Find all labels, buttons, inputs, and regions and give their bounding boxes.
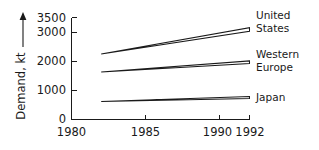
y-tick-label-3000: 3000 — [37, 25, 66, 39]
y-axis-title: Demand, kt — [14, 52, 28, 120]
x-tick-label-1980: 1980 — [57, 125, 86, 139]
y-axis-tick-labels: 3500 3000 2000 1000 0 — [37, 11, 66, 126]
series-label-japan: Japan — [255, 91, 285, 103]
x-tick-label-1990: 1990 — [203, 125, 232, 139]
x-tick-label-1985: 1985 — [131, 125, 160, 139]
series-band-japan — [101, 97, 249, 102]
japan-label-line1: Japan — [255, 91, 285, 103]
demand-forecast-chart: Demand, kt 3500 3000 2000 1000 0 1980 19 — [0, 0, 319, 150]
y-tick-label-0: 0 — [59, 112, 66, 126]
y-tick-label-3500: 3500 — [37, 11, 66, 25]
y-axis-label-group: Demand, kt — [14, 12, 28, 120]
western-europe-label-line2: Europe — [256, 61, 293, 73]
series-label-united-states: United States — [256, 9, 291, 34]
chart-canvas: Demand, kt 3500 3000 2000 1000 0 1980 19 — [0, 0, 319, 150]
united-states-label-line2: States — [256, 22, 289, 34]
western-europe-label-line1: Western — [256, 48, 299, 60]
series-band-united-states — [101, 28, 249, 54]
series-label-western-europe: Western Europe — [256, 48, 299, 73]
series-band-western-europe — [101, 61, 249, 72]
y-tick-label-2000: 2000 — [37, 54, 66, 68]
x-tick-label-1992: 1992 — [235, 125, 264, 139]
up-arrow-icon — [20, 12, 27, 20]
y-tick-label-1000: 1000 — [37, 83, 66, 97]
western-europe-band-shape — [101, 61, 249, 72]
united-states-label-line1: United — [256, 9, 291, 21]
united-states-band-shape — [101, 28, 249, 54]
japan-band-shape — [101, 97, 249, 102]
x-axis-tick-labels: 1980 1985 1990 1992 — [57, 125, 265, 139]
